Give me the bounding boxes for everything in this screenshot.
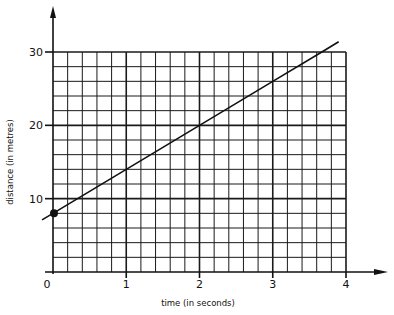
x-tick-label: 2 — [196, 278, 203, 291]
y-tick-label: 10 — [29, 193, 43, 206]
tick-labels: 01234102030 — [29, 46, 350, 291]
x-axis-arrow-icon — [374, 269, 388, 275]
data-line — [42, 42, 339, 220]
x-axis-label: time (in seconds) — [161, 298, 235, 308]
grid — [53, 52, 346, 272]
data-point-marker — [50, 209, 58, 217]
y-tick-label: 30 — [29, 46, 43, 59]
distance-time-chart: 01234102030 time (in seconds) distance (… — [0, 0, 394, 315]
x-tick-label: 4 — [343, 278, 350, 291]
x-tick-label: 1 — [123, 278, 130, 291]
x-tick-label: 3 — [269, 278, 276, 291]
x-tick-label: 0 — [44, 278, 51, 291]
y-axis-arrow-icon — [50, 6, 56, 18]
y-tick-label: 20 — [29, 119, 43, 132]
y-axis-label: distance (in metres) — [5, 119, 15, 205]
series-line — [42, 42, 339, 220]
